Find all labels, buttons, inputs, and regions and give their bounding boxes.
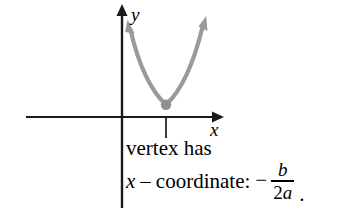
y-axis-label: y bbox=[131, 5, 139, 24]
x-axis bbox=[26, 112, 224, 123]
caption-line-x-coordinate: x – coordinate: − b 2a . bbox=[126, 161, 358, 203]
caption-block: vertex has x – coordinate: − b 2a . bbox=[126, 136, 358, 203]
y-axis-arrowhead-icon bbox=[117, 4, 128, 16]
caption-word-coordinate: coordinate: bbox=[156, 169, 250, 194]
caption-variable-x: x bbox=[126, 169, 135, 194]
parabola-path bbox=[131, 27, 203, 105]
vertex-point-marker bbox=[161, 100, 171, 110]
parabola-curve bbox=[125, 16, 207, 105]
formula-fraction: b 2a bbox=[271, 160, 294, 202]
parabola-right-arrowhead-icon bbox=[198, 16, 207, 31]
formula-denominator-2a: 2a bbox=[271, 182, 294, 202]
caption-trailing-period: . bbox=[299, 182, 304, 207]
formula-denominator-coefficient: 2 bbox=[273, 182, 283, 203]
parabola-vertex-figure: y x vertex has x – coordinate: − b 2a . bbox=[0, 0, 358, 208]
caption-line-vertex-has: vertex has bbox=[126, 136, 358, 161]
formula-negative-b-over-2a: − b 2a . bbox=[255, 161, 304, 203]
formula-numerator-b: b bbox=[275, 160, 291, 180]
formula-minus-sign: − bbox=[255, 170, 267, 191]
caption-dash: – bbox=[135, 169, 156, 194]
formula-denominator-variable: a bbox=[283, 182, 293, 203]
